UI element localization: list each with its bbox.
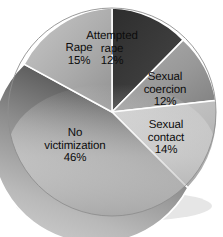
pie-chart-svg <box>0 0 223 237</box>
pie-chart-figure: Attempted rape 12% Sexual coercion 12% S… <box>0 0 223 237</box>
